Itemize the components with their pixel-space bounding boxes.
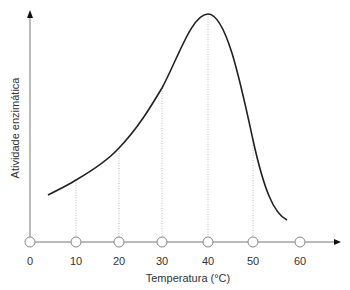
enzyme-activity-chart: 0 10 20 30 40 50 60 Temperatura (°C) Ati…: [0, 0, 350, 290]
x-axis-arrow-icon: [334, 239, 341, 245]
x-tick-label: 60: [294, 255, 306, 267]
guide-lines: [76, 14, 253, 242]
x-axis-title: Temperatura (°C): [146, 272, 230, 284]
y-axis-arrow-icon: [27, 10, 33, 18]
x-tick-label: 0: [27, 255, 33, 267]
x-tick-label: 50: [247, 255, 259, 267]
y-axis-title: Atividade enzimática: [9, 77, 21, 179]
x-tick-label: 20: [113, 255, 125, 267]
x-tick-label: 40: [202, 255, 214, 267]
x-tick-labels: 0 10 20 30 40 50 60: [27, 255, 306, 267]
activity-curve: [48, 14, 287, 220]
x-tick-label: 10: [70, 255, 82, 267]
x-tick-label: 30: [156, 255, 168, 267]
